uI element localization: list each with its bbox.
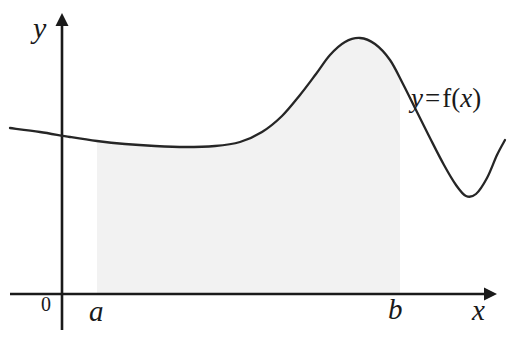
upper-limit-label-b: b (388, 295, 403, 324)
x-axis-label: x (472, 296, 485, 325)
curve-equation-f-open: f( (442, 83, 460, 113)
y-axis-arrowhead (56, 13, 69, 26)
shaded-area-region (97, 38, 400, 294)
curve-equation-close-paren: ) (472, 83, 481, 113)
y-axis-label: y (33, 13, 46, 43)
curve-equation-label: y=f(x) (411, 85, 481, 112)
x-axis-arrowhead (484, 288, 497, 301)
figure-canvas (0, 0, 510, 343)
y-axis (56, 13, 69, 330)
lower-limit-label-a: a (89, 297, 104, 326)
curve-equation-y: y (411, 83, 423, 113)
curve-equation-x: x (460, 83, 472, 113)
figure-area-under-curve: y x 0 a b y=f(x) (0, 0, 510, 343)
curve-equation-equals: = (423, 83, 442, 113)
origin-label: 0 (41, 294, 51, 314)
